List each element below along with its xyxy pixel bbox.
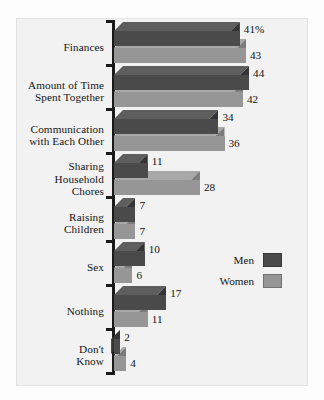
bar-front-face <box>114 268 132 283</box>
bars-layer: 41%4434117101724342362876114 <box>0 0 324 400</box>
legend-item-women[interactable]: Women <box>196 274 282 291</box>
value-label: 10 <box>149 244 160 255</box>
bar-women-4 <box>114 224 135 239</box>
bar-front-face <box>114 356 126 371</box>
bar-front-face <box>114 31 240 46</box>
value-label: 4 <box>130 358 136 369</box>
axis-tick <box>106 20 115 23</box>
bar-front-face <box>114 251 145 266</box>
bar-women-0 <box>114 48 246 63</box>
axis-tick <box>106 240 115 243</box>
value-label: 44 <box>253 68 264 79</box>
bar-front-face <box>114 207 135 222</box>
bar-front-face <box>114 339 120 354</box>
bar-men-5 <box>114 251 145 266</box>
value-label: 41% <box>244 24 265 35</box>
axis-tick <box>106 328 115 331</box>
value-label: 11 <box>152 314 163 325</box>
bar-front-face <box>114 163 148 178</box>
bar-men-6 <box>114 295 166 310</box>
bar-top-face <box>114 22 240 31</box>
axis-tick <box>106 64 115 67</box>
value-label: 11 <box>152 156 163 167</box>
bar-men-1 <box>114 75 249 90</box>
bar-front-face <box>114 75 249 90</box>
value-label: 7 <box>139 226 145 237</box>
bar-front-face <box>114 224 135 239</box>
bar-front-face <box>114 136 225 151</box>
bar-women-5 <box>114 268 132 283</box>
value-label: 2 <box>124 332 130 343</box>
bar-chart: FinancesAmount of TimeSpent TogetherComm… <box>0 0 324 400</box>
value-label: 17 <box>170 288 181 299</box>
value-label: 6 <box>136 270 142 281</box>
bar-front-face <box>114 119 218 134</box>
bar-front-face <box>114 48 246 63</box>
bar-men-7 <box>114 339 120 354</box>
bar-front-face <box>114 92 243 107</box>
bar-men-2 <box>114 119 218 134</box>
value-label: 28 <box>204 182 215 193</box>
value-label: 36 <box>229 138 240 149</box>
legend-label: Men <box>233 254 254 267</box>
bar-front-face <box>114 295 166 310</box>
bar-men-3 <box>114 163 148 178</box>
bar-front-face <box>114 180 200 195</box>
value-label: 43 <box>250 50 261 61</box>
axis-tick <box>106 108 115 111</box>
bar-women-3 <box>114 180 200 195</box>
value-label: 7 <box>139 200 145 211</box>
chart-legend: MenWomen <box>196 253 282 295</box>
bar-top-face <box>114 110 218 119</box>
bar-women-6 <box>114 312 148 327</box>
value-label: 42 <box>247 94 258 105</box>
axis-tick <box>106 372 115 375</box>
legend-label: Women <box>219 275 254 288</box>
bar-men-4 <box>114 207 135 222</box>
axis-tick <box>106 284 115 287</box>
axis-tick <box>106 152 115 155</box>
bar-women-1 <box>114 92 243 107</box>
axis-tick <box>106 196 115 199</box>
bar-top-face <box>114 286 166 295</box>
bar-top-face <box>114 66 249 75</box>
value-label: 34 <box>222 112 233 123</box>
bar-men-0 <box>114 31 240 46</box>
legend-swatch <box>263 253 282 267</box>
legend-item-men[interactable]: Men <box>196 253 282 270</box>
bar-front-face <box>114 312 148 327</box>
bar-women-7 <box>114 356 126 371</box>
legend-swatch <box>263 274 282 288</box>
bar-women-2 <box>114 136 225 151</box>
